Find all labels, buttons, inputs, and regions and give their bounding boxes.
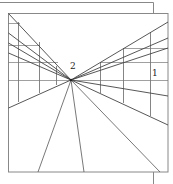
side-label: 1 <box>152 69 158 78</box>
vanishing-point-label: 2 <box>70 62 76 71</box>
picture-frame <box>9 14 169 173</box>
vanishing-point <box>70 79 72 81</box>
perspective-diagram <box>0 0 173 184</box>
